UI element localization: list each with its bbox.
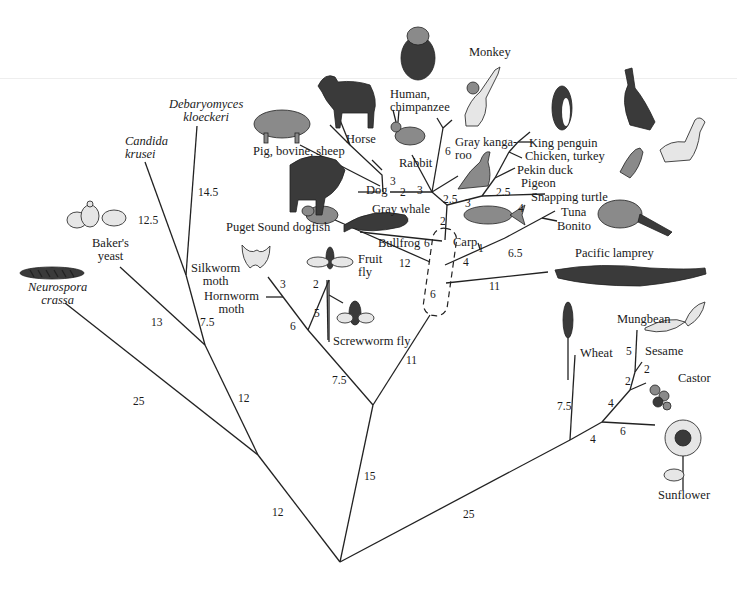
taxon-rabbit: Rabbit (399, 157, 432, 170)
branch-label: 12 (238, 392, 250, 404)
branch-label: 2 (625, 375, 631, 387)
branch-label: 25 (133, 395, 145, 407)
taxon-bakers-yeast: Baker's yeast (92, 237, 129, 263)
silkworm-moth-illustration (242, 245, 270, 268)
taxon-pig-bovine-sheep: Pig, bovine, sheep (253, 145, 345, 158)
taxon-gray-whale: Gray whale (372, 203, 430, 216)
label-line: yeast (92, 250, 129, 263)
branch-label: 3 (465, 197, 471, 209)
monkey-illustration (465, 67, 500, 126)
taxon-gray-kangaroo: Gray kanga- roo (455, 136, 517, 162)
branch-label: 3 (390, 175, 396, 187)
branch-label: 6 (445, 145, 451, 157)
king-penguin-illustration (552, 86, 572, 130)
dog-illustration (290, 156, 345, 215)
branch-label: 6.5 (508, 247, 522, 259)
label-line: krusei (125, 148, 168, 161)
taxon-debaryomyces: Debaryomyces kloeckeri (169, 98, 243, 124)
pekin-duck-illustration (660, 118, 705, 162)
branch-label: 2 (313, 278, 319, 290)
label-line: moth (204, 303, 259, 316)
taxon-wheat: Wheat (580, 347, 613, 360)
label-line: chimpanzee (390, 101, 450, 114)
castor-illustration (650, 385, 671, 410)
taxon-snapping-turtle: Snapping turtle (531, 191, 608, 204)
taxon-sunflower: Sunflower (658, 489, 710, 502)
sunflower-illustration (664, 420, 701, 490)
taxon-tuna: Tuna (561, 206, 586, 219)
label-line: crassa (28, 294, 87, 307)
taxon-pigeon: Pigeon (521, 177, 556, 190)
taxon-castor: Castor (678, 372, 711, 385)
taxon-hornworm-moth: Hornworm moth (204, 290, 259, 316)
label-line: roo (455, 149, 517, 162)
branch-label: 4 (590, 433, 596, 445)
branch-label: 6 (620, 425, 626, 437)
pacific-lamprey-illustration (555, 265, 706, 286)
taxon-bullfrog: Bullfrog (378, 237, 420, 250)
fruit-fly-illustration (307, 247, 353, 269)
label-line: moth (191, 275, 240, 288)
branch-label: 1 (478, 242, 484, 254)
horse-illustration (318, 76, 375, 128)
branch-label: 12 (272, 506, 284, 518)
branch-label: 2.5 (443, 193, 457, 205)
branch-label: 11 (406, 354, 417, 366)
pigeon-illustration (620, 148, 643, 178)
label-line: fly (358, 266, 382, 279)
branch-label: 7.5 (200, 316, 214, 328)
taxon-human-chimpanzee: Human, chimpanzee (390, 88, 450, 114)
taxon-sesame: Sesame (645, 345, 683, 358)
branch-label: 5 (626, 345, 632, 357)
screwworm-fly-illustration (337, 301, 374, 325)
pig-illustration (254, 110, 310, 143)
branch-label: 25 (463, 508, 475, 520)
neurospora-illustration (20, 267, 84, 279)
chimpanzee-illustration (401, 27, 435, 80)
branch-label: 7.5 (332, 374, 346, 386)
taxon-carp: Carp (453, 236, 477, 249)
taxon-candida: Candida krusei (125, 135, 168, 161)
branch-label: 3 (417, 184, 423, 196)
phylogenetic-tree (0, 0, 737, 594)
carp-illustration (464, 205, 525, 225)
branch-label: 2 (400, 186, 406, 198)
taxon-mungbean: Mungbean (617, 313, 670, 326)
branch-label: 12 (399, 257, 411, 269)
turkey-illustration (624, 68, 655, 130)
snapping-turtle-illustration (598, 200, 672, 236)
branch-label: 3 (280, 278, 286, 290)
branch-label: 2 (440, 215, 446, 227)
taxon-neurospora: Neurospora crassa (28, 281, 87, 307)
taxon-dog: Dog (366, 184, 388, 197)
taxon-fruit-fly: Fruit fly (358, 253, 382, 279)
branch-label: 6 (430, 288, 436, 300)
branch-label: 14.5 (198, 186, 218, 198)
taxon-dogfish: Puget Sound dogfish (226, 221, 330, 234)
branch-label: 6 (290, 320, 296, 332)
bakers-yeast-illustration (67, 201, 126, 228)
taxon-monkey: Monkey (469, 46, 511, 59)
branch-label: 15 (364, 470, 376, 482)
wheat-illustration (563, 302, 573, 380)
label-line: kloeckeri (169, 111, 243, 124)
taxon-pacific-lamprey: Pacific lamprey (575, 247, 654, 260)
taxon-chicken-turkey: Chicken, turkey (525, 150, 605, 163)
rabbit-illustration (391, 110, 425, 145)
taxon-silkworm-moth: Silkworm moth (191, 262, 240, 288)
taxon-horse: Horse (346, 133, 376, 146)
branch-label: 12.5 (138, 214, 158, 226)
branch-label: 5 (314, 307, 320, 319)
taxon-bonito: Bonito (557, 220, 591, 233)
branch-label: 7.5 (557, 400, 571, 412)
branch-label: 2 (644, 363, 650, 375)
branch-label: 2.5 (496, 186, 510, 198)
taxon-screwworm-fly: Screwworm fly (333, 335, 410, 348)
branch-label: 4 (463, 256, 469, 268)
branch-label: 13 (151, 316, 163, 328)
branch-label: 6 (424, 237, 430, 249)
branch-label: 11 (489, 280, 500, 292)
branch-label: 4 (608, 397, 614, 409)
branch-label: 4 (518, 202, 524, 214)
